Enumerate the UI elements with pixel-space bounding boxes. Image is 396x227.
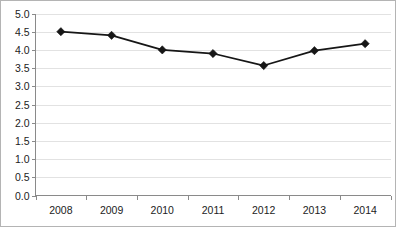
data-point-marker [361, 40, 369, 48]
x-axis-tick-label: 2010 [151, 204, 175, 216]
chart-frame: 0.00.51.01.52.02.53.03.54.04.55.0 200820… [0, 0, 396, 227]
gridlines-group [36, 15, 391, 178]
x-axis-tick-label: 2014 [353, 204, 377, 216]
y-axis-tick-label: 2.0 [15, 117, 30, 129]
x-axis-tick-label: 2013 [303, 204, 327, 216]
line-chart: 0.00.51.01.52.02.53.03.54.04.55.0 200820… [1, 1, 396, 227]
x-axis-tick-label: 2011 [202, 204, 225, 216]
x-axis-tick-label: 2008 [49, 204, 73, 216]
data-point-marker [57, 28, 65, 36]
y-axis-tick-label: 3.0 [15, 80, 30, 92]
data-markers-group [57, 28, 369, 70]
y-axis-tick-label: 2.5 [15, 99, 30, 111]
y-axis-tick-label: 0.5 [15, 171, 30, 183]
y-axis-tick-label: 3.5 [15, 62, 30, 74]
tick-marks-group [32, 15, 392, 200]
axis-lines-group [36, 14, 391, 196]
y-axis-tick-label: 0.0 [15, 190, 30, 202]
x-axis-tick-label: 2009 [100, 204, 124, 216]
y-axis-labels-group: 0.00.51.01.52.02.53.03.54.04.55.0 [15, 8, 30, 202]
data-point-marker [310, 47, 318, 55]
data-series-group [61, 32, 365, 66]
x-axis-labels-group: 2008200920102011201220132014 [49, 204, 377, 216]
y-axis-tick-label: 4.5 [15, 26, 30, 38]
series-line [61, 32, 365, 66]
y-axis-tick-label: 5.0 [15, 8, 30, 20]
y-axis-tick-label: 4.0 [15, 44, 30, 56]
data-point-marker [158, 46, 166, 54]
x-axis-tick-label: 2012 [252, 204, 276, 216]
y-axis-tick-label: 1.5 [15, 135, 30, 147]
y-axis-tick-label: 1.0 [15, 153, 30, 165]
